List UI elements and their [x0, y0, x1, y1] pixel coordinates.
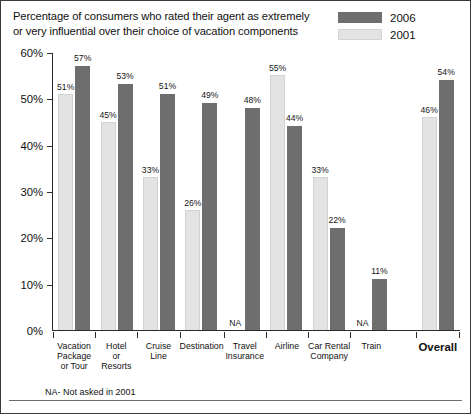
- bar-2006: 44%: [287, 126, 302, 330]
- bar-value-label: 51%: [57, 82, 74, 92]
- category-divider-tick: [308, 332, 309, 338]
- bar-value-label: 22%: [328, 215, 345, 225]
- bar-2001: 33%: [313, 177, 328, 330]
- category-divider-tick: [459, 332, 460, 338]
- category-label: Destination: [180, 332, 224, 384]
- bar-group: 46%54%: [415, 53, 460, 330]
- category-divider-tick: [350, 332, 351, 338]
- category-divider-tick: [266, 332, 267, 338]
- category-label-line: Destination: [180, 341, 224, 351]
- category-label: HotelorResorts: [95, 332, 137, 384]
- bar-groups: 51%57%45%53%33%51%26%49%NA48%55%44%33%22…: [53, 53, 460, 330]
- bar-slot-2006: 51%: [160, 53, 175, 330]
- bar-value-label: 33%: [142, 165, 159, 175]
- y-axis-tick-label: 20%: [20, 232, 43, 244]
- category-label-line: Resorts: [95, 361, 137, 371]
- bar-2001: 55%: [270, 75, 285, 330]
- bar-slot-2001: NA: [228, 53, 243, 330]
- category-label-line: Insurance: [224, 351, 266, 361]
- axes: 51%57%45%53%33%51%26%49%NA48%55%44%33%22…: [52, 53, 460, 331]
- bar-group: 33%51%: [138, 53, 180, 330]
- y-axis-tick-label: 40%: [20, 140, 43, 152]
- bar-slot-2001: NA: [355, 53, 370, 330]
- category-label-line: Travel: [224, 341, 266, 351]
- bar-slot-2006: 11%: [372, 53, 387, 330]
- bar-2006: 48%: [245, 108, 260, 330]
- bar-value-label: 44%: [286, 113, 303, 123]
- bar-2006: 49%: [202, 103, 217, 330]
- bar-value-label: 46%: [421, 105, 438, 115]
- y-axis-tick-label: 10%: [20, 279, 43, 291]
- y-axis-tick-label: 30%: [20, 186, 43, 198]
- bar-slot-2001: 33%: [313, 53, 328, 330]
- bar-group: 45%53%: [95, 53, 137, 330]
- bar-slot-2001: 33%: [143, 53, 158, 330]
- bar-slot-2006: 57%: [75, 53, 90, 330]
- bar-2001: 33%: [143, 177, 158, 330]
- bar-slot-2006: 44%: [287, 53, 302, 330]
- category-divider-tick: [95, 332, 96, 338]
- category-label: Overall: [416, 332, 460, 384]
- bar-value-label: 33%: [311, 165, 328, 175]
- bar-2006: 54%: [439, 80, 454, 330]
- bar-value-label: 45%: [99, 110, 116, 120]
- legend-item-2001: 2001: [338, 27, 456, 42]
- category-label-line: Line: [137, 351, 179, 361]
- bar-slot-2001: 45%: [101, 53, 116, 330]
- bar-slot-2006: 54%: [439, 53, 454, 330]
- bar-value-label: 54%: [438, 67, 455, 77]
- chart-figure: Percentage of consumers who rated their …: [0, 0, 471, 414]
- bar-slot-2001: 26%: [185, 53, 200, 330]
- bar-value-label: 48%: [244, 95, 261, 105]
- bar-2001: 26%: [185, 210, 200, 330]
- bar-slot-2006: 49%: [202, 53, 217, 330]
- bar-slot-2001: 55%: [270, 53, 285, 330]
- bar-group: 33%22%: [307, 53, 349, 330]
- category-label: Airline: [266, 332, 308, 384]
- category-label: Car RentalCompany: [308, 332, 350, 384]
- x-axis-categories: VacationPackageor TourHotelorResortsCrui…: [53, 332, 460, 384]
- chart-header: Percentage of consumers who rated their …: [13, 9, 460, 49]
- y-axis-labels: 0%10%20%30%40%50%60%: [13, 53, 47, 331]
- category-label: CruiseLine: [137, 332, 179, 384]
- plot-area: 0%10%20%30%40%50%60% 51%57%45%53%33%51%2…: [13, 53, 460, 379]
- bar-slot-2006: 53%: [118, 53, 133, 330]
- bar-na-label: NA: [356, 318, 368, 328]
- category-divider-tick: [180, 332, 181, 338]
- category-label-line: or Tour: [53, 361, 95, 371]
- bar-2001: 51%: [58, 94, 73, 330]
- bar-value-label: 26%: [184, 198, 201, 208]
- category-label: VacationPackageor Tour: [53, 332, 95, 384]
- category-label-line: or: [95, 351, 137, 361]
- category-label-line: Company: [308, 351, 350, 361]
- bar-2006: 51%: [160, 94, 175, 330]
- category-label-line: Cruise: [137, 341, 179, 351]
- group-spacer: [392, 53, 415, 330]
- category-label-line: Hotel: [95, 341, 137, 351]
- bar-group: 26%49%: [180, 53, 222, 330]
- bar-2006: 53%: [118, 84, 133, 330]
- bar-value-label: 49%: [201, 90, 218, 100]
- bar-slot-2006: 22%: [330, 53, 345, 330]
- x-axis-line: [52, 330, 460, 331]
- bar-2001: 45%: [101, 122, 116, 331]
- legend-label-2006: 2006: [390, 12, 416, 24]
- chart-title: Percentage of consumers who rated their …: [13, 9, 313, 38]
- bar-group: NA11%: [350, 53, 392, 330]
- legend-swatch-2006: [338, 12, 382, 23]
- category-label-line: Airline: [266, 341, 308, 351]
- category-spacer: [392, 332, 415, 384]
- bar-slot-2006: 48%: [245, 53, 260, 330]
- bar-value-label: 11%: [371, 266, 388, 276]
- bar-2001: 46%: [422, 117, 437, 330]
- category-label: Train: [350, 332, 392, 384]
- category-divider-tick: [137, 332, 138, 338]
- category-label: TravelInsurance: [224, 332, 266, 384]
- bar-2006: 11%: [372, 279, 387, 330]
- y-axis-tick-label: 60%: [20, 47, 43, 59]
- bar-2006: 57%: [75, 66, 90, 330]
- bar-group: NA48%: [223, 53, 265, 330]
- bar-value-label: 57%: [74, 53, 91, 63]
- category-label-line: Vacation: [53, 341, 95, 351]
- category-label-line: Car Rental: [308, 341, 350, 351]
